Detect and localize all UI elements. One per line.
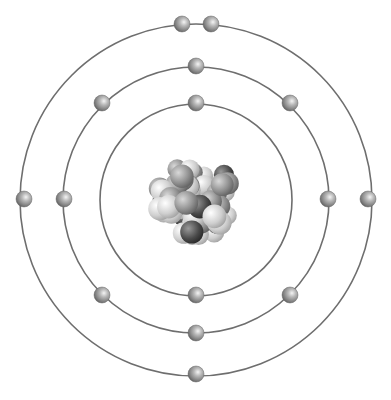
nucleon (203, 205, 227, 229)
electron-shell-2 (188, 325, 204, 341)
atom-diagram (0, 0, 391, 400)
nucleon (180, 220, 203, 243)
nucleus (148, 159, 239, 245)
electron-shell-3 (203, 16, 219, 32)
electron-shell-3 (188, 366, 204, 382)
electron-shell-1 (188, 95, 204, 111)
electron-shell-2 (188, 58, 204, 74)
electron-shell-1 (188, 287, 204, 303)
nucleon (211, 173, 234, 196)
nucleon (174, 191, 198, 215)
electron-shell-2 (94, 287, 110, 303)
electron-shell-2 (94, 95, 110, 111)
electron-shell-2 (320, 191, 336, 207)
electron-shell-3 (16, 191, 32, 207)
electron-shell-2 (282, 95, 298, 111)
electron-shell-2 (56, 191, 72, 207)
electron-shell-3 (174, 16, 190, 32)
electron-shell-3 (360, 191, 376, 207)
atom-diagram-canvas (0, 0, 391, 400)
nucleon (170, 165, 193, 188)
electron-shell-2 (282, 287, 298, 303)
